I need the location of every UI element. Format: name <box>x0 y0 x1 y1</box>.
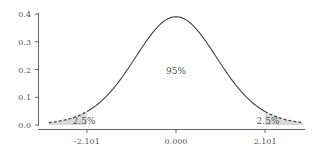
center-region-label: 95% <box>166 66 186 76</box>
y-tick-label: 0.1 <box>18 93 31 102</box>
t-distribution-chart: 0.00.10.20.30.4 -2.1010.0002.101 95% 2.5… <box>0 0 326 154</box>
y-tick-label: 0.3 <box>18 38 31 47</box>
y-tick-label: 0.4 <box>18 10 31 19</box>
left-tail-label: 2.5% <box>73 116 96 126</box>
x-axis-ticks: -2.1010.0002.101 <box>74 130 276 147</box>
right-tail-label: 2.5% <box>257 116 280 126</box>
x-tick-label: -2.101 <box>74 137 100 146</box>
y-axis-ticks: 0.00.10.20.30.4 <box>18 10 38 130</box>
density-curve <box>87 17 265 112</box>
y-tick-label: 0.2 <box>18 66 31 75</box>
x-tick-label: 2.101 <box>254 137 277 146</box>
x-tick-label: 0.000 <box>165 137 188 146</box>
y-tick-label: 0.0 <box>18 121 31 130</box>
